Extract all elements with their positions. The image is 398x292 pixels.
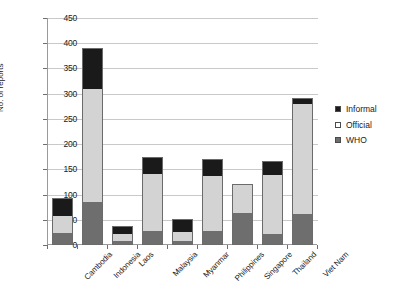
xtick-mark <box>137 245 138 249</box>
bar-segment-informal <box>113 227 132 234</box>
x-axis-label-indonesia: Indonesia <box>112 250 142 280</box>
bar-laos[interactable] <box>112 226 133 245</box>
legend-item-official: Official <box>335 121 377 130</box>
bar-segment-official <box>113 234 132 241</box>
xtick-mark <box>47 245 48 249</box>
bar-slot <box>292 18 313 245</box>
x-axis-label-thailand: Thailand <box>291 250 318 277</box>
bar-slot <box>202 18 223 245</box>
bar-slot <box>172 18 193 245</box>
bar-segment-who <box>143 231 162 244</box>
xtick-mark <box>107 245 108 249</box>
bar-myanmar[interactable] <box>172 219 193 245</box>
bar-segment-who <box>53 233 72 244</box>
bar-segment-official <box>203 176 222 231</box>
x-axis-label-viet-nam: Viet Nam <box>321 250 350 279</box>
legend-swatch-who <box>335 137 341 143</box>
bar-slot <box>142 18 163 245</box>
bar-cambodia[interactable] <box>52 198 73 245</box>
bar-segment-informal <box>203 160 222 176</box>
legend-label-official: Official <box>346 121 372 130</box>
bar-series-layer <box>47 18 317 245</box>
bar-indonesia[interactable] <box>82 48 103 245</box>
legend-label-informal: Informal <box>346 105 377 114</box>
bar-segment-who <box>203 231 222 244</box>
bar-slot <box>232 18 253 245</box>
y-axis-title: No. of reports <box>0 22 5 112</box>
bar-slot <box>82 18 103 245</box>
bar-segment-who <box>263 234 282 244</box>
x-axis-label-philippines: Philippines <box>233 250 266 283</box>
x-axis-label-singapore: Singapore <box>262 250 294 282</box>
bar-segment-who <box>293 214 312 244</box>
legend-swatch-informal <box>335 106 341 112</box>
bar-segment-official <box>83 89 102 201</box>
bar-segment-informal <box>83 49 102 89</box>
bar-slot <box>112 18 133 245</box>
bar-segment-official <box>233 185 252 212</box>
bar-viet-nam[interactable] <box>292 98 313 245</box>
x-axis-label-myanmar: Myanmar <box>202 250 231 279</box>
xtick-mark <box>77 245 78 249</box>
bar-philippines[interactable] <box>202 159 223 245</box>
legend-item-informal: Informal <box>335 105 377 114</box>
xtick-mark <box>287 245 288 249</box>
bar-segment-who <box>113 241 132 244</box>
legend-swatch-official <box>335 122 341 128</box>
bar-slot <box>52 18 73 245</box>
legend-item-who: WHO <box>335 136 377 145</box>
x-axis-label-malaysia: Malaysia <box>171 250 199 278</box>
bar-segment-informal <box>53 199 72 215</box>
xtick-mark <box>167 245 168 249</box>
legend-label-who: WHO <box>346 136 367 145</box>
bar-singapore[interactable] <box>232 184 253 245</box>
xtick-mark <box>197 245 198 249</box>
xtick-mark <box>257 245 258 249</box>
bar-segment-who <box>233 213 252 244</box>
bar-segment-official <box>53 216 72 233</box>
bar-segment-official <box>173 232 192 241</box>
xtick-mark <box>317 245 318 249</box>
bar-segment-who <box>173 241 192 244</box>
bar-segment-informal <box>173 220 192 232</box>
bar-malaysia[interactable] <box>142 157 163 245</box>
bar-slot <box>262 18 283 245</box>
bar-segment-who <box>83 202 102 244</box>
bar-segment-official <box>143 174 162 232</box>
stacked-bar-chart: 450 400 350 300 250 200 150 100 50 0 No.… <box>0 0 398 292</box>
bar-segment-informal <box>263 162 282 175</box>
bar-segment-official <box>263 175 282 234</box>
bar-segment-informal <box>143 158 162 174</box>
bar-segment-official <box>293 104 312 214</box>
xtick-mark <box>227 245 228 249</box>
bar-thailand[interactable] <box>262 161 283 245</box>
x-axis-label-cambodia: Cambodia <box>82 250 114 282</box>
chart-legend: Informal Official WHO <box>335 105 377 152</box>
